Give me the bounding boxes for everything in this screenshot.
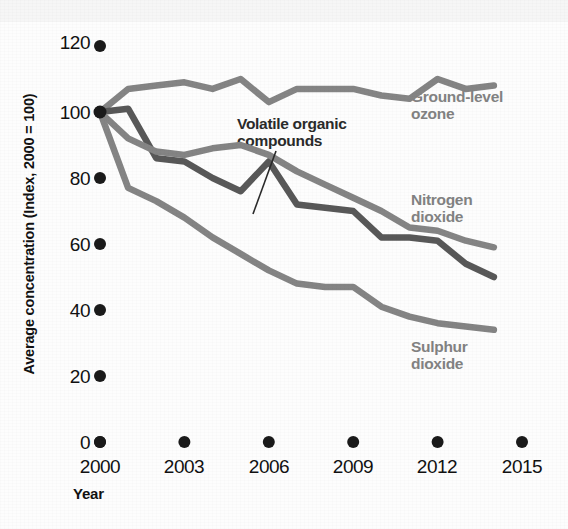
series-line-sulphur-dioxide [100, 112, 494, 330]
x-tick-dot [347, 436, 359, 448]
x-tick-dot [516, 436, 528, 448]
plot-area [0, 0, 568, 529]
x-tick-dot [178, 436, 190, 448]
y-tick-dot [94, 172, 106, 184]
x-tick-dot [94, 436, 106, 448]
y-tick-dot [94, 40, 106, 52]
series-lines [100, 79, 494, 330]
x-tick-dot [263, 436, 275, 448]
y-tick-dot [94, 370, 106, 382]
series-line-nitrogen-dioxide [100, 112, 494, 247]
line-chart: Average concentration (Index, 2000 = 100… [0, 0, 568, 529]
origin-marker [94, 106, 107, 119]
y-tick-dot [94, 304, 106, 316]
series-line-volatile-organic-compounds [100, 109, 494, 277]
series-line-ground-level-ozone [100, 79, 494, 112]
voc-leader-line [253, 151, 276, 214]
y-tick-dot [94, 238, 106, 250]
tick-dots [94, 40, 528, 448]
x-tick-dot [432, 436, 444, 448]
